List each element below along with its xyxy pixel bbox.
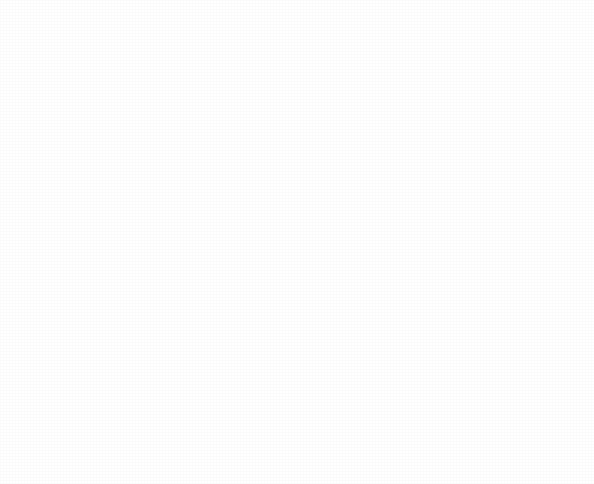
street-grid-figure: [0, 0, 594, 484]
paper-grain-overlay: [0, 0, 594, 484]
